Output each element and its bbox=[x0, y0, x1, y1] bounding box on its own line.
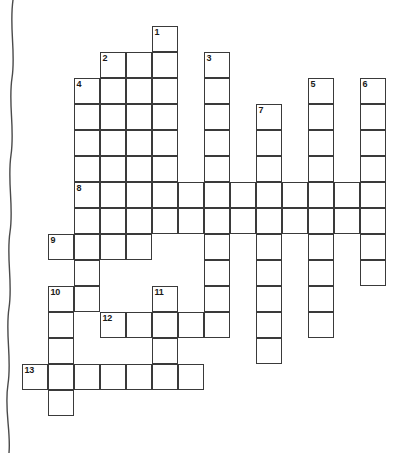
crossword-cell[interactable]: 5 bbox=[308, 78, 334, 104]
crossword-cell[interactable] bbox=[126, 234, 152, 260]
crossword-cell[interactable] bbox=[360, 260, 386, 286]
crossword-cell[interactable] bbox=[360, 234, 386, 260]
crossword-cell[interactable] bbox=[204, 78, 230, 104]
crossword-cell[interactable] bbox=[48, 390, 74, 416]
crossword-cell[interactable] bbox=[204, 130, 230, 156]
crossword-cell[interactable] bbox=[308, 208, 334, 234]
crossword-cell[interactable] bbox=[74, 234, 100, 260]
crossword-cell[interactable] bbox=[152, 156, 178, 182]
crossword-cell[interactable] bbox=[178, 364, 204, 390]
crossword-cell[interactable] bbox=[126, 52, 152, 78]
crossword-cell[interactable] bbox=[152, 364, 178, 390]
crossword-cell[interactable] bbox=[126, 312, 152, 338]
crossword-cell[interactable] bbox=[204, 260, 230, 286]
crossword-cell[interactable] bbox=[126, 78, 152, 104]
crossword-cell[interactable] bbox=[100, 78, 126, 104]
crossword-cell[interactable] bbox=[152, 52, 178, 78]
crossword-cell[interactable] bbox=[152, 338, 178, 364]
crossword-cell[interactable] bbox=[100, 130, 126, 156]
crossword-cell[interactable] bbox=[100, 208, 126, 234]
crossword-cell[interactable] bbox=[230, 182, 256, 208]
crossword-cell[interactable]: 2 bbox=[100, 52, 126, 78]
crossword-cell[interactable]: 7 bbox=[256, 104, 282, 130]
crossword-cell[interactable] bbox=[204, 156, 230, 182]
crossword-cell[interactable] bbox=[74, 156, 100, 182]
crossword-cell[interactable] bbox=[204, 286, 230, 312]
crossword-cell[interactable] bbox=[100, 104, 126, 130]
crossword-cell[interactable] bbox=[152, 182, 178, 208]
crossword-cell[interactable] bbox=[256, 208, 282, 234]
crossword-cell[interactable]: 10 bbox=[48, 286, 74, 312]
crossword-cell[interactable]: 13 bbox=[22, 364, 48, 390]
crossword-cell[interactable]: 4 bbox=[74, 78, 100, 104]
crossword-cell[interactable] bbox=[100, 364, 126, 390]
crossword-grid[interactable]: 12345678910111213 bbox=[0, 0, 403, 453]
crossword-cell[interactable] bbox=[152, 208, 178, 234]
crossword-cell[interactable] bbox=[204, 208, 230, 234]
crossword-cell[interactable] bbox=[230, 208, 256, 234]
crossword-cell[interactable] bbox=[256, 338, 282, 364]
crossword-cell[interactable] bbox=[74, 364, 100, 390]
crossword-cell[interactable] bbox=[152, 104, 178, 130]
crossword-cell[interactable] bbox=[360, 130, 386, 156]
crossword-cell[interactable] bbox=[126, 104, 152, 130]
crossword-cell[interactable] bbox=[334, 182, 360, 208]
crossword-cell[interactable] bbox=[360, 208, 386, 234]
crossword-cell[interactable] bbox=[204, 104, 230, 130]
crossword-cell[interactable] bbox=[256, 182, 282, 208]
crossword-cell[interactable] bbox=[282, 208, 308, 234]
crossword-cell[interactable] bbox=[256, 234, 282, 260]
crossword-cell[interactable] bbox=[204, 312, 230, 338]
crossword-cell[interactable] bbox=[152, 130, 178, 156]
crossword-cell[interactable] bbox=[48, 338, 74, 364]
crossword-cell[interactable] bbox=[74, 286, 100, 312]
crossword-cell[interactable] bbox=[256, 156, 282, 182]
crossword-cell[interactable]: 3 bbox=[204, 52, 230, 78]
crossword-cell[interactable] bbox=[126, 182, 152, 208]
crossword-cell[interactable] bbox=[334, 208, 360, 234]
crossword-cell[interactable] bbox=[256, 312, 282, 338]
crossword-cell[interactable] bbox=[178, 312, 204, 338]
crossword-cell[interactable] bbox=[360, 104, 386, 130]
crossword-cell[interactable] bbox=[152, 312, 178, 338]
crossword-cell[interactable] bbox=[178, 182, 204, 208]
crossword-cell[interactable] bbox=[204, 182, 230, 208]
crossword-cell[interactable]: 9 bbox=[48, 234, 74, 260]
crossword-cell[interactable] bbox=[308, 260, 334, 286]
crossword-cell[interactable]: 12 bbox=[100, 312, 126, 338]
crossword-cell[interactable]: 11 bbox=[152, 286, 178, 312]
crossword-cell[interactable] bbox=[308, 156, 334, 182]
crossword-cell[interactable] bbox=[74, 130, 100, 156]
crossword-cell[interactable] bbox=[256, 286, 282, 312]
crossword-cell[interactable] bbox=[282, 182, 308, 208]
crossword-cell[interactable] bbox=[152, 78, 178, 104]
crossword-cell[interactable] bbox=[100, 156, 126, 182]
crossword-cell[interactable] bbox=[74, 104, 100, 130]
crossword-cell[interactable] bbox=[126, 156, 152, 182]
crossword-cell[interactable] bbox=[256, 130, 282, 156]
crossword-cell[interactable] bbox=[308, 234, 334, 260]
crossword-cell[interactable] bbox=[308, 286, 334, 312]
crossword-cell[interactable] bbox=[48, 364, 74, 390]
crossword-cell[interactable] bbox=[256, 260, 282, 286]
crossword-cell[interactable] bbox=[308, 312, 334, 338]
crossword-cell[interactable] bbox=[308, 104, 334, 130]
crossword-cell[interactable] bbox=[126, 364, 152, 390]
crossword-cell[interactable] bbox=[100, 234, 126, 260]
crossword-cell[interactable]: 8 bbox=[74, 182, 100, 208]
crossword-cell[interactable]: 6 bbox=[360, 78, 386, 104]
crossword-cell[interactable] bbox=[360, 156, 386, 182]
crossword-cell[interactable] bbox=[178, 208, 204, 234]
crossword-cell[interactable] bbox=[48, 312, 74, 338]
clue-number-8: 8 bbox=[77, 183, 82, 193]
crossword-cell[interactable] bbox=[126, 130, 152, 156]
crossword-cell[interactable] bbox=[308, 182, 334, 208]
crossword-cell[interactable]: 1 bbox=[152, 26, 178, 52]
crossword-cell[interactable] bbox=[204, 234, 230, 260]
crossword-cell[interactable] bbox=[100, 182, 126, 208]
crossword-cell[interactable] bbox=[308, 130, 334, 156]
crossword-cell[interactable] bbox=[126, 208, 152, 234]
crossword-cell[interactable] bbox=[360, 182, 386, 208]
crossword-cell[interactable] bbox=[74, 208, 100, 234]
crossword-cell[interactable] bbox=[74, 260, 100, 286]
